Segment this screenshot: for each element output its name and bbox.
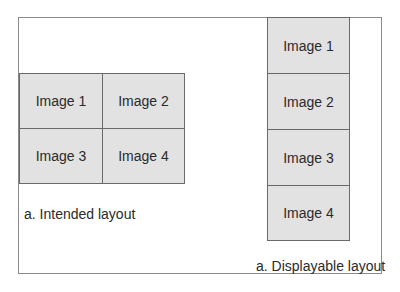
cell-label: Image 4: [118, 148, 169, 164]
intended-cell-image-3: Image 3: [19, 128, 103, 184]
cell-label: Image 2: [283, 94, 334, 110]
displayable-cell-image-3: Image 3: [267, 129, 350, 186]
intended-cell-image-2: Image 2: [102, 73, 185, 129]
cell-label: Image 3: [36, 148, 87, 164]
cell-label: Image 1: [36, 93, 87, 109]
cell-label: Image 3: [283, 150, 334, 166]
cell-label: Image 1: [283, 38, 334, 54]
displayable-cell-image-1: Image 1: [267, 17, 350, 74]
intended-layout-caption: a. Intended layout: [24, 206, 135, 222]
intended-cell-image-1: Image 1: [19, 73, 103, 129]
cell-label: Image 2: [118, 93, 169, 109]
displayable-layout-caption: a. Displayable layout: [256, 258, 385, 274]
displayable-cell-image-2: Image 2: [267, 73, 350, 130]
intended-cell-image-4: Image 4: [102, 128, 185, 184]
displayable-cell-image-4: Image 4: [267, 185, 350, 241]
cell-label: Image 4: [283, 205, 334, 221]
